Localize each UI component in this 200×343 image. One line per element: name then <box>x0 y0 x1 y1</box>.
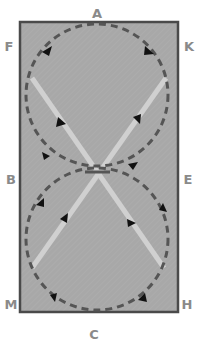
letter-e: E <box>184 172 193 187</box>
letter-m: M <box>5 297 18 312</box>
arena-diagram: A F K B E M H C <box>0 0 200 343</box>
letter-f: F <box>5 39 14 54</box>
letter-h: H <box>182 297 193 312</box>
letter-k: K <box>184 39 195 54</box>
letter-b: B <box>6 172 16 187</box>
letter-a: A <box>92 6 102 21</box>
letter-c: C <box>89 327 99 342</box>
